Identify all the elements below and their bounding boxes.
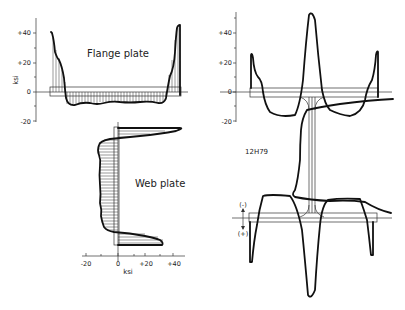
flange-tick-40: +40 xyxy=(17,29,31,37)
section-top-flange xyxy=(250,88,378,97)
section-top-flange-curve xyxy=(251,13,378,116)
web-tick-0: 0 xyxy=(116,260,120,268)
web-plate-panel: -20 0 +20 +40 ksi Web plate xyxy=(81,122,186,276)
flange-tick-minus20: -20 xyxy=(20,118,31,126)
flange-tick-0: 0 xyxy=(27,88,31,96)
section-id-label: 12H79 xyxy=(245,148,268,156)
section-tick-20: +20 xyxy=(218,59,232,67)
flange-hatching xyxy=(53,28,178,105)
flange-plate-outline xyxy=(50,87,181,96)
section-tick-minus20: -20 xyxy=(221,118,232,126)
section-bottom-flange-curve xyxy=(250,195,373,297)
section-web-curve xyxy=(293,99,393,213)
section-panel: +40 +20 0 -20 (-) (+) 12H79 xyxy=(218,12,393,297)
web-tick-20: +20 xyxy=(139,260,153,268)
flange-stress-curve xyxy=(51,25,180,105)
compression-sign-label: (-) xyxy=(239,201,246,209)
section-bottom-flange xyxy=(249,213,377,222)
web-plate-title: Web plate xyxy=(135,178,185,189)
section-tick-40: +40 xyxy=(218,29,232,37)
flange-plate-panel: +40 +20 0 -20 ksi xyxy=(12,18,188,126)
tension-sign-label: (+) xyxy=(238,230,249,238)
residual-stress-diagram: +40 +20 0 -20 ksi xyxy=(0,0,405,310)
flange-y-axis-label: ksi xyxy=(12,75,20,85)
flange-tick-20: +20 xyxy=(17,59,31,67)
web-tick-minus20: -20 xyxy=(81,260,92,268)
web-x-axis-label: ksi xyxy=(123,268,133,276)
web-tick-40: +40 xyxy=(167,260,181,268)
flange-plate-title: Flange plate xyxy=(87,48,149,59)
